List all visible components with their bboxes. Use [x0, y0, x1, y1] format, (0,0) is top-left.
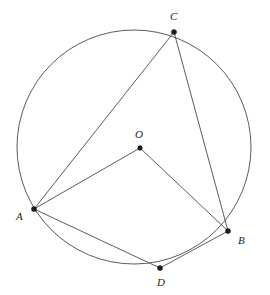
circle-outline	[17, 30, 251, 264]
geometry-figure: C O A B D	[0, 0, 270, 295]
point-marker-o	[138, 146, 143, 151]
point-marker-d	[157, 265, 162, 270]
segment-ad	[34, 209, 160, 268]
segment-group	[34, 32, 228, 268]
point-label-d: D	[157, 277, 165, 288]
point-marker-c	[171, 29, 176, 34]
point-marker-a	[31, 206, 36, 211]
segment-db	[160, 231, 228, 268]
segment-ob	[140, 148, 228, 231]
point-marker-b	[225, 228, 230, 233]
geometry-canvas	[0, 0, 270, 295]
point-label-c: C	[170, 11, 177, 22]
vertex-group	[31, 29, 230, 270]
segment-ac	[34, 32, 174, 209]
point-label-b: B	[238, 235, 245, 246]
segment-ao	[34, 148, 140, 209]
segment-cb	[174, 32, 228, 231]
point-label-o: O	[135, 129, 143, 140]
point-label-a: A	[16, 211, 23, 222]
